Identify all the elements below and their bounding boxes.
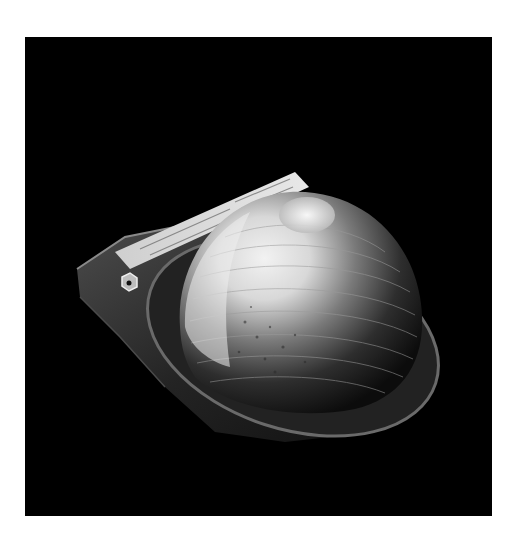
photograph [25,37,492,516]
image-frame [0,0,521,549]
screw [122,273,137,291]
specimen-illustration [25,37,492,516]
